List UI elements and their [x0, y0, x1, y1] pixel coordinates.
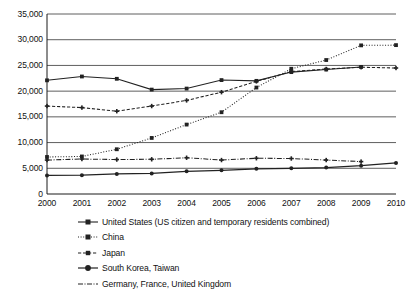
line-dotted-marker-icon [78, 231, 98, 243]
legend-item-china[interactable]: China [78, 230, 398, 246]
x-axis-tick-label: 2006 [240, 198, 272, 208]
line-dashdot-marker-icon [78, 278, 98, 290]
y-axis-tick-label: 25,000 [18, 60, 43, 70]
legend-item-germany-france-uk[interactable]: Germany, France, United Kingdom [78, 276, 398, 292]
legend-label-germany-france-uk: Germany, France, United Kingdom [102, 279, 231, 289]
legend-label-japan: Japan [102, 248, 125, 258]
y-axis-tick-label: 35,000 [18, 9, 43, 19]
x-axis-tick-label: 2010 [380, 198, 410, 208]
x-axis-tick-label: 2000 [31, 198, 63, 208]
y-axis-tick-label: 5,000 [22, 163, 43, 173]
legend-label-united-states: United States (US citizen and temporary … [102, 217, 329, 227]
x-axis-tick-label: 2007 [275, 198, 307, 208]
chart-legend: United States (US citizen and temporary … [78, 214, 398, 292]
legend-item-united-states[interactable]: United States (US citizen and temporary … [78, 214, 398, 230]
y-axis-tick-label: 15,000 [18, 111, 43, 121]
line-solid-marker-icon [78, 216, 98, 228]
line-dashed-marker-icon [78, 247, 98, 259]
x-axis-tick-label: 2008 [310, 198, 342, 208]
line-solid-dot-marker-icon [78, 262, 98, 274]
y-axis-tick-label: 20,000 [18, 86, 43, 96]
legend-item-japan[interactable]: Japan [78, 245, 398, 261]
legend-label-south-korea-taiwan: South Korea, Taiwan [102, 263, 179, 273]
y-axis-tick-label: 30,000 [18, 34, 43, 44]
y-axis-tick-label: 10,000 [18, 137, 43, 147]
x-axis-tick-label: 2001 [66, 198, 98, 208]
x-axis-tick-label: 2005 [206, 198, 238, 208]
x-axis-tick-label: 2009 [345, 198, 377, 208]
x-axis-tick-label: 2002 [101, 198, 133, 208]
legend-item-south-korea-taiwan[interactable]: South Korea, Taiwan [78, 261, 398, 277]
y-axis-tick-label: 0 [38, 189, 43, 199]
legend-label-china: China [102, 232, 124, 242]
data-series-group [45, 43, 398, 177]
x-axis-tick-label: 2004 [171, 198, 203, 208]
x-axis-tick-label: 2003 [136, 198, 168, 208]
